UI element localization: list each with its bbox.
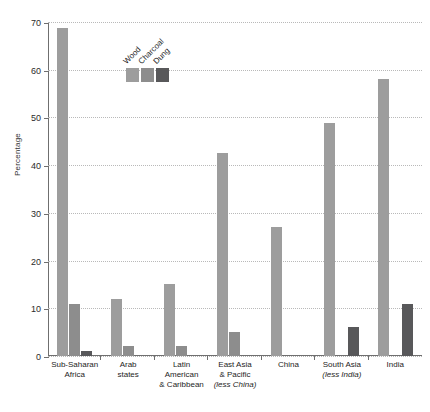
bar-group [369,22,422,356]
gridline-0: 0 [48,356,422,357]
bar-dung [402,304,413,356]
bar-group [262,22,315,356]
x-axis-label: South Asia(less India) [315,360,368,390]
bar-dung [348,327,359,356]
bar-charcoal [176,346,187,356]
legend-swatch-dung [156,68,169,82]
x-label-line: India [370,360,421,370]
x-label-line: East Asia [209,360,260,370]
x-axis-label: Sub-SaharanAfrica [48,360,101,390]
legend-swatches [126,68,169,82]
x-label-line: Africa [49,370,100,380]
y-tick-label-40: 40 [31,161,41,171]
bar-wood [324,123,335,356]
x-axis-label: Latin American& Caribbean [155,360,208,390]
y-tick-label-70: 70 [31,18,41,28]
y-tick-mark-0 [44,357,49,358]
bar-wood [111,299,122,356]
x-label-line: & Pacific [209,370,260,380]
x-label-line: (less India) [316,370,367,380]
bar-dung [81,351,92,356]
legend: WoodCharcoalDung [126,30,236,82]
bar-group [315,22,368,356]
bar-charcoal [69,304,80,356]
y-tick-label-20: 20 [31,257,41,267]
x-label-line: states [102,370,153,380]
x-axis-labels: Sub-SaharanAfricaArabstatesLatin America… [48,360,422,390]
x-axis-label: China [262,360,315,390]
legend-labels: WoodCharcoalDung [126,30,236,66]
bar-wood [271,227,282,356]
legend-swatch-wood [126,68,139,82]
bar-wood [378,79,389,356]
x-label-line: South Asia [316,360,367,370]
y-tick-label-10: 10 [31,304,41,314]
bar-charcoal [123,346,134,356]
x-label-line: Latin American [156,360,207,380]
x-axis-label: East Asia& Pacific(less China) [208,360,261,390]
y-tick-label-30: 30 [31,209,41,219]
bar-wood [57,28,68,356]
x-label-line: China [263,360,314,370]
y-tick-label-50: 50 [31,113,41,123]
legend-swatch-charcoal [141,68,154,82]
y-tick-label-0: 0 [36,352,41,362]
x-label-line: Sub-Saharan [49,360,100,370]
y-tick-label-60: 60 [31,66,41,76]
x-label-line: & Caribbean [156,380,207,390]
y-axis-title: Percentage [13,100,22,210]
bar-group [48,22,101,356]
bar-charcoal [229,332,240,356]
x-axis-label: Arabstates [101,360,154,390]
bar-wood [164,284,175,356]
x-label-line: (less China) [209,380,260,390]
x-label-line: Arab [102,360,153,370]
bar-chart: Percentage 010203040506070 Sub-SaharanAf… [0,0,430,412]
x-axis-label: India [369,360,422,390]
bar-wood [217,153,228,356]
